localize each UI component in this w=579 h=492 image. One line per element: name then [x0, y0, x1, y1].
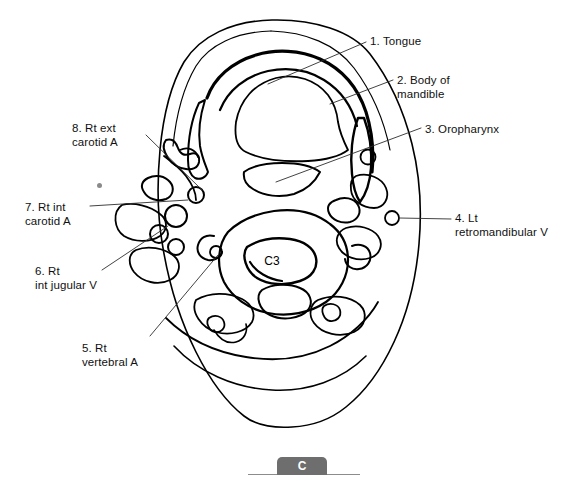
label-1-tongue: 1. Tongue — [370, 34, 421, 48]
spinal-canal — [259, 285, 311, 319]
right-parapharyngeal-tissue — [328, 198, 360, 223]
label-6-rt-int-jugular-v: 6. Rt int jugular V — [35, 264, 97, 292]
tongue-outline — [235, 76, 348, 161]
label-5-rt-vertebral-a: 5. Rt vertebral A — [82, 341, 138, 369]
asterisk-marker — [97, 183, 102, 188]
label-4-lt-retromandibular-v: 4. Lt retromandibular V — [455, 211, 548, 239]
left-transverse-process — [197, 235, 222, 260]
posterior-small-vessel-left — [207, 316, 224, 332]
rt-int-carotid-artery — [165, 205, 187, 227]
label-8-rt-ext-carotid-a: 8. Rt ext carotid A — [72, 121, 118, 149]
leader-8 — [146, 135, 202, 190]
nuchal-muscle-line — [166, 302, 378, 359]
left-mandibular-ramus — [188, 100, 208, 179]
posterior-small-vessel-right — [322, 304, 340, 321]
left-upper-muscle-wave — [164, 156, 196, 200]
label-2-body-of-mandible: 2. Body of mandible — [397, 73, 450, 101]
leader-4 — [399, 218, 451, 219]
mandible-inner-arch — [220, 69, 357, 126]
right-lateral-muscle — [337, 226, 381, 259]
left-parapharyngeal-tissue — [164, 139, 199, 169]
c3-vertebral-body — [244, 238, 316, 284]
panel-letter-tab: C — [277, 457, 327, 475]
label-3-oropharynx: 3. Oropharynx — [425, 122, 499, 136]
vertebral-arch — [219, 210, 348, 314]
leader-3 — [276, 128, 421, 182]
leader-1 — [268, 42, 366, 84]
label-7-rt-int-carotid-a: 7. Rt int carotid A — [25, 200, 71, 228]
lt-retromandibular-vein — [385, 211, 399, 225]
c3-vertebra-text: C3 — [264, 254, 280, 268]
nuchal-muscle-line-lower — [174, 346, 366, 390]
anatomy-figure: C3 8. Rt ext carotid A 7. Rt int carotid… — [0, 0, 579, 492]
anatomy-line-drawing: C3 — [0, 0, 579, 492]
